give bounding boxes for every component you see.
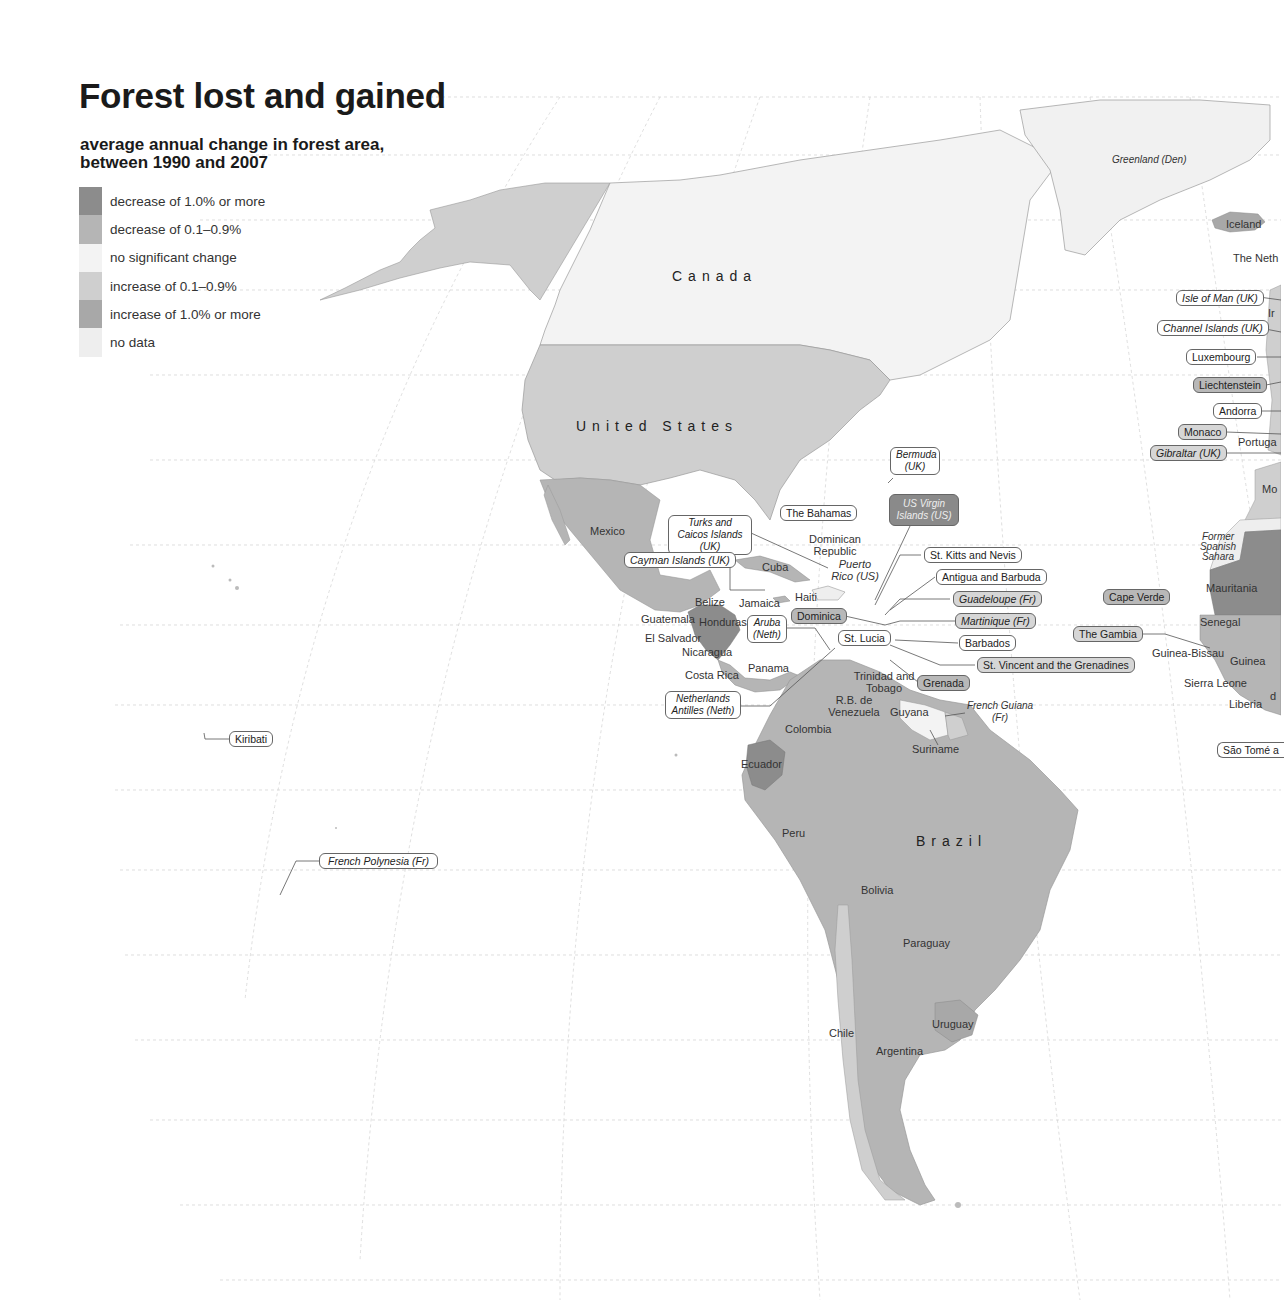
legend-swatch <box>79 300 102 328</box>
legend-label: no significant change <box>110 250 237 265</box>
callout-channel-islands: Channel Islands (UK) <box>1157 320 1269 336</box>
callout-netherlands-antilles: Netherlands Antilles (Neth) <box>665 691 741 719</box>
callout-barbados: Barbados <box>959 635 1016 651</box>
callout-monaco: Monaco <box>1178 424 1227 440</box>
label-cuba: Cuba <box>762 561 788 573</box>
callout-martinique: Martinique (Fr) <box>955 613 1036 629</box>
callout-sao-tome: São Tomé a <box>1217 742 1284 758</box>
legend-swatch <box>79 328 102 356</box>
label-trinidad-tobago: Trinidad and Tobago <box>852 670 916 694</box>
label-cote-divoire-fragment: d <box>1270 690 1276 702</box>
label-former-spanish-sahara: Former Spanish Sahara <box>1198 532 1238 562</box>
label-french-guiana: French Guiana (Fr) <box>964 700 1036 724</box>
legend-swatch <box>79 187 102 215</box>
label-peru: Peru <box>782 827 805 839</box>
callout-dominica: Dominica <box>791 608 847 624</box>
label-mauritania: Mauritania <box>1206 582 1257 594</box>
legend-label: increase of 1.0% or more <box>110 307 261 322</box>
label-brazil: Brazil <box>916 835 987 847</box>
callout-kiribati: Kiribati <box>229 731 273 747</box>
legend-item-decrease-high: decrease of 1.0% or more <box>79 187 265 215</box>
label-mexico: Mexico <box>590 525 625 537</box>
callout-bahamas: The Bahamas <box>780 505 857 521</box>
legend-label: no data <box>110 335 155 350</box>
label-senegal: Senegal <box>1200 616 1240 628</box>
callout-luxembourg: Luxembourg <box>1186 349 1256 365</box>
map-title: Forest lost and gained <box>79 76 446 116</box>
label-guinea-bissau: Guinea-Bissau <box>1152 647 1224 659</box>
legend-item-decrease-low: decrease of 0.1–0.9% <box>79 215 265 243</box>
legend-swatch <box>79 272 102 300</box>
label-el-salvador: El Salvador <box>645 632 701 644</box>
legend-label: decrease of 1.0% or more <box>110 194 265 209</box>
legend-label: decrease of 0.1–0.9% <box>110 222 241 237</box>
legend: decrease of 1.0% or more decrease of 0.1… <box>79 187 265 357</box>
callout-gibraltar: Gibraltar (UK) <box>1150 445 1227 461</box>
legend-label: increase of 0.1–0.9% <box>110 279 237 294</box>
callout-st-lucia: St. Lucia <box>838 630 891 646</box>
label-colombia: Colombia <box>785 723 831 735</box>
label-liberia: Liberia <box>1229 698 1262 710</box>
callout-andorra: Andorra <box>1213 403 1262 419</box>
callout-french-polynesia: French Polynesia (Fr) <box>319 853 438 869</box>
label-panama: Panama <box>748 662 789 674</box>
label-dominican-republic: Dominican Republic <box>805 533 865 557</box>
label-argentina: Argentina <box>876 1045 923 1057</box>
region-south-america <box>742 660 1078 1205</box>
label-haiti: Haiti <box>795 591 817 603</box>
label-ecuador: Ecuador <box>741 758 782 770</box>
legend-item-increase-low: increase of 0.1–0.9% <box>79 272 265 300</box>
label-puerto-rico: Puerto Rico (US) <box>830 558 880 582</box>
legend-item-no-change: no significant change <box>79 244 265 272</box>
label-portugal: Portuga <box>1238 436 1277 448</box>
callout-st-vincent: St. Vincent and the Grenadines <box>977 657 1135 673</box>
callout-liechtenstein: Liechtenstein <box>1193 377 1267 393</box>
label-guinea: Guinea <box>1230 655 1265 667</box>
label-costa-rica: Costa Rica <box>685 669 739 681</box>
label-belize: Belize <box>695 596 725 608</box>
label-jamaica: Jamaica <box>739 597 780 609</box>
callout-cayman: Cayman Islands (UK) <box>624 552 736 568</box>
label-guyana: Guyana <box>890 706 929 718</box>
label-honduras: Honduras <box>699 616 747 628</box>
label-paraguay: Paraguay <box>903 937 950 949</box>
callout-the-gambia: The Gambia <box>1073 626 1143 642</box>
label-nicaragua: Nicaragua <box>682 646 732 658</box>
label-venezuela: R.B. de Venezuela <box>826 694 882 718</box>
legend-item-increase-high: increase of 1.0% or more <box>79 300 265 328</box>
label-uruguay: Uruguay <box>932 1018 974 1030</box>
callout-guadeloupe: Guadeloupe (Fr) <box>953 591 1042 607</box>
label-sierra-leone: Sierra Leone <box>1184 677 1247 689</box>
region-canada <box>540 130 1060 380</box>
callout-aruba: Aruba (Neth) <box>747 615 787 643</box>
callout-cape-verde: Cape Verde <box>1103 589 1170 605</box>
label-suriname: Suriname <box>912 743 959 755</box>
map-subtitle: average annual change in forest area, be… <box>80 136 420 172</box>
label-greenland: Greenland (Den) <box>1112 154 1186 166</box>
label-netherlands: The Neth <box>1233 252 1278 264</box>
callout-isle-of-man: Isle of Man (UK) <box>1176 290 1264 306</box>
label-morocco: Mo <box>1262 483 1277 495</box>
label-ireland: Ir <box>1268 307 1275 319</box>
callout-bermuda: Bermuda (UK) <box>890 447 940 475</box>
legend-swatch <box>79 244 102 272</box>
label-chile: Chile <box>829 1027 854 1039</box>
label-united-states: United States <box>576 420 738 432</box>
callout-antigua: Antigua and Barbuda <box>936 569 1047 585</box>
callout-st-kitts: St. Kitts and Nevis <box>924 547 1022 563</box>
label-bolivia: Bolivia <box>861 884 893 896</box>
label-guatemala: Guatemala <box>641 613 695 625</box>
label-iceland: Iceland <box>1226 218 1261 230</box>
legend-item-no-data: no data <box>79 328 265 356</box>
legend-swatch <box>79 215 102 243</box>
callout-grenada: Grenada <box>917 675 970 691</box>
callout-us-virgin-islands: US Virgin Islands (US) <box>889 494 959 526</box>
label-canada: Canada <box>672 270 757 282</box>
callout-turks-caicos: Turks and Caicos Islands (UK) <box>668 515 752 555</box>
